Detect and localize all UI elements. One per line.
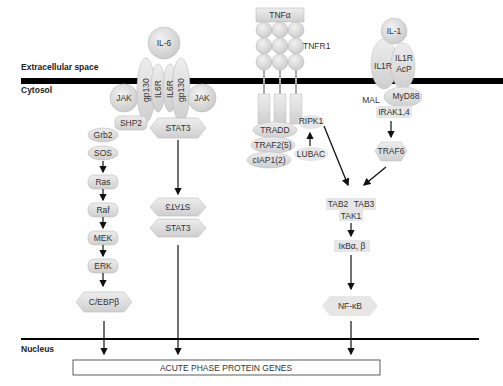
il6r-right-label: IL6R bbox=[165, 80, 175, 98]
gp130-left-label: gp130 bbox=[141, 78, 151, 102]
irak-label: IRAK1,4 bbox=[378, 107, 410, 117]
tnfa-label: TNFα bbox=[269, 10, 291, 20]
sos-label: SOS bbox=[94, 148, 112, 158]
tnfr1-label: TNFR1 bbox=[303, 41, 331, 51]
nuclear-membrane bbox=[21, 338, 479, 340]
il6-ligand-label: IL-6 bbox=[157, 38, 172, 48]
stat3-cytosolic-label: STAT3 bbox=[165, 123, 190, 133]
nfkb-label: NF-κB bbox=[338, 301, 362, 311]
il1r-acp-label-2: AcP bbox=[396, 64, 412, 74]
ras-label: Ras bbox=[95, 177, 110, 187]
shp2-label: SHP2 bbox=[120, 118, 142, 128]
ripk1-label: RIPK1 bbox=[299, 116, 324, 126]
extracellular-label: Extracellular space bbox=[21, 62, 99, 72]
ikb-label: IκBα, β bbox=[339, 241, 366, 251]
traf6-label: TRAF6 bbox=[378, 146, 405, 156]
erk-label: ERK bbox=[94, 261, 112, 271]
raf-label: Raf bbox=[96, 205, 110, 215]
jak-right-label: JAK bbox=[194, 93, 210, 103]
stat3-dimer-top-label: STAT3 bbox=[165, 202, 190, 212]
il6-receptor-complex: gp130 IL6R IL6R gp130 bbox=[137, 58, 190, 122]
stat3-dimer-bottom-label: STAT3 bbox=[165, 223, 190, 233]
tak1-label: TAK1 bbox=[341, 211, 362, 221]
il1r-label: IL1R bbox=[374, 61, 392, 71]
lubac-label: LUBAC bbox=[297, 149, 325, 159]
tab2-label: TAB2 bbox=[328, 199, 349, 209]
myd88-label: MyD88 bbox=[393, 91, 420, 101]
cytosol-label: Cytosol bbox=[21, 85, 52, 95]
cebpb-label: C/EBPβ bbox=[89, 297, 120, 307]
mapk-cascade: Grb2 SOS Ras Raf MEK ERK bbox=[88, 128, 118, 286]
tradd-label: TRADD bbox=[260, 125, 289, 135]
gp130-right-label: gp130 bbox=[176, 78, 186, 102]
acute-phase-genes-label: ACUTE PHASE PROTEIN GENES bbox=[160, 363, 293, 373]
traf6-to-tak1-arrow bbox=[364, 167, 386, 185]
pathway-diagram: Extracellular space Cytosol Nucleus gp13… bbox=[0, 0, 503, 386]
tnfr1-receptor bbox=[256, 22, 304, 124]
plasma-membrane bbox=[21, 78, 503, 84]
il1-label: IL-1 bbox=[387, 26, 402, 36]
grb2-label: Grb2 bbox=[94, 130, 113, 140]
ciap1-label: cIAP1(2) bbox=[252, 155, 285, 165]
jak-left-label: JAK bbox=[116, 93, 132, 103]
il6r-left-label: IL6R bbox=[153, 80, 163, 98]
il1r-acp-label-1: IL1R bbox=[395, 53, 413, 63]
tab3-label: TAB3 bbox=[354, 199, 375, 209]
nucleus-label: Nucleus bbox=[21, 344, 54, 354]
mal-label: MAL bbox=[362, 95, 380, 105]
mek-label: MEK bbox=[94, 233, 113, 243]
traf2-label: TRAF2(5) bbox=[254, 140, 291, 150]
